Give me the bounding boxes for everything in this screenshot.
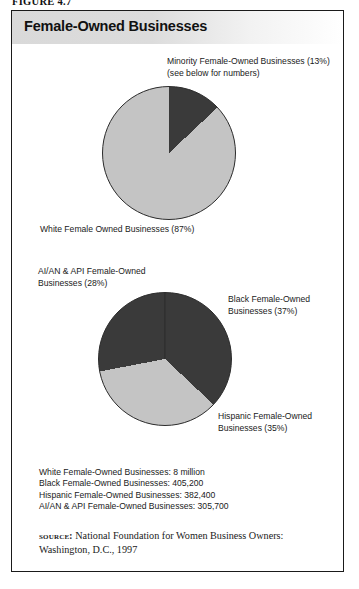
pie-label-white-female: White Female Owned Businesses (87%): [40, 224, 240, 236]
source-text: National Foundation for Women Business O…: [39, 530, 283, 555]
numbers-list-item: Hispanic Female-Owned Businesses: 382,40…: [39, 490, 329, 501]
pie-label-aian-api: AI/AN & API Female-Owned Businesses (28%…: [38, 266, 168, 289]
numbers-list-item: Black Female-Owned Businesses: 405,200: [39, 478, 329, 489]
source-kicker: source:: [39, 531, 73, 541]
figure-number-caption: FIGURE 4.7: [12, 0, 72, 7]
figure-title-band: Female-Owned Businesses: [12, 11, 343, 44]
numbers-list-item: White Female-Owned Businesses: 8 million: [39, 467, 329, 478]
pie-label-black-female: Black Female-Owned Businesses (37%): [228, 294, 348, 317]
pie-label-hispanic-female: Hispanic Female-Owned Businesses (35%): [218, 411, 348, 434]
pie-chart-overall: [102, 86, 236, 220]
pie-slice-divider: [164, 293, 165, 359]
pie-label-minority: Minority Female-Owned Businesses (13%) (…: [167, 56, 342, 79]
source-note: source: National Foundation for Women Bu…: [39, 529, 324, 557]
page-title: Female-Owned Businesses: [24, 18, 207, 34]
numbers-list: White Female-Owned Businesses: 8 million…: [39, 467, 329, 513]
pie-chart-minority-breakdown: [98, 292, 232, 426]
chart-area: Minority Female-Owned Businesses (13%) (…: [12, 44, 343, 573]
numbers-list-item: AI/AN & API Female-Owned Businesses: 305…: [39, 501, 329, 512]
figure-frame: Female-Owned Businesses Minority Female-…: [11, 10, 344, 572]
